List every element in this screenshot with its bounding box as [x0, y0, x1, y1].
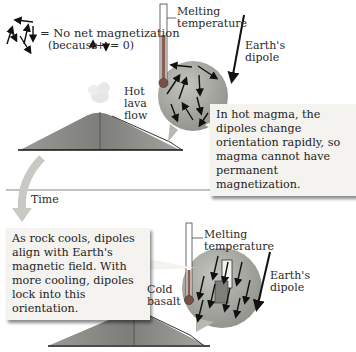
dipole-label-bottom-2: dipole — [270, 282, 304, 294]
legend-label: = No net magnetization — [40, 27, 180, 39]
basalt-sphere-aligned — [182, 248, 262, 332]
time-label: Time — [31, 194, 59, 206]
legend-because-suffix: = 0) — [110, 40, 134, 52]
thermometer-label-top-2: temperature — [177, 18, 247, 30]
callout-hot-magma: In hot magma, the dipoles change orienta… — [210, 104, 356, 196]
legend-because-prefix: (because — [48, 40, 98, 52]
thermometer-label-bottom-2: temperature — [204, 241, 274, 253]
random-dipoles-legend-icon — [7, 20, 33, 52]
legend-plus: + — [96, 40, 105, 52]
callout-rock-cools: As rock cools, dipoles align with Earth'… — [6, 228, 150, 320]
basalt-label-2: basalt — [147, 296, 181, 308]
lava-label-3: flow — [124, 110, 147, 122]
dipole-label-top-2: dipole — [245, 52, 279, 64]
